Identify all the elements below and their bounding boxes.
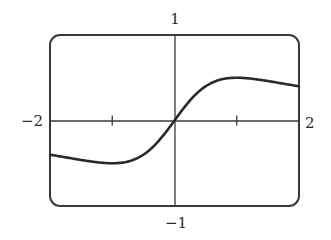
x-max-label: 2 <box>305 114 315 132</box>
y-max-label: 1 <box>170 10 180 28</box>
y-min-label: −1 <box>165 214 187 232</box>
x-min-label: −2 <box>21 112 43 130</box>
graph-plot: 1 −1 −2 2 <box>0 0 331 240</box>
